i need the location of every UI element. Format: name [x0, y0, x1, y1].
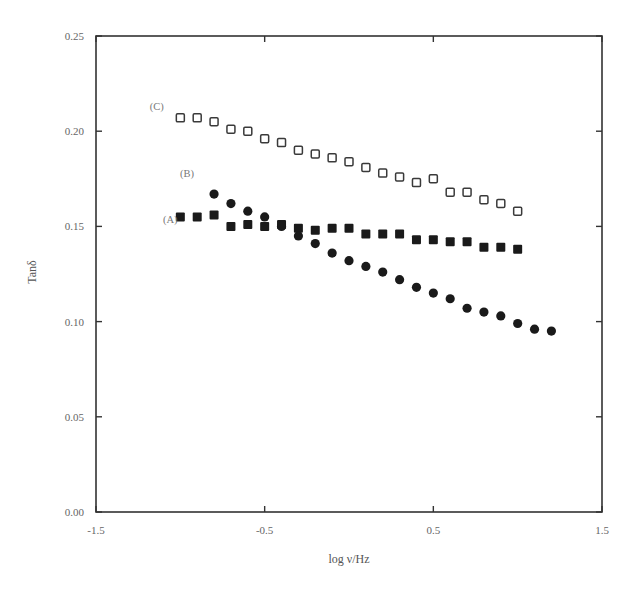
x-axis-title: log ν/Hz [328, 552, 369, 566]
data-point [514, 207, 522, 215]
y-tick-label: 0.20 [65, 125, 85, 137]
data-point [311, 239, 320, 248]
data-point [328, 248, 337, 257]
data-point [496, 243, 505, 252]
series-b [209, 189, 556, 335]
data-point [446, 294, 455, 303]
data-point [446, 237, 455, 246]
data-point [261, 135, 269, 143]
y-axis-title: Tanδ [25, 260, 39, 284]
data-point [361, 262, 370, 271]
series-layer [176, 114, 556, 336]
data-point [260, 212, 269, 221]
data-point [209, 189, 218, 198]
data-point [362, 163, 370, 171]
data-point [379, 169, 387, 177]
axes [96, 36, 602, 512]
plot-frame [96, 36, 602, 512]
data-point [412, 235, 421, 244]
series-label: (A) [163, 214, 178, 226]
series-label: (B) [180, 168, 195, 180]
data-point [260, 222, 269, 231]
data-point [226, 199, 235, 208]
data-point [547, 327, 556, 336]
data-point [513, 319, 522, 328]
data-point [496, 311, 505, 320]
data-point [278, 139, 286, 147]
data-point [412, 179, 420, 187]
data-point [429, 288, 438, 297]
data-point [462, 304, 471, 313]
data-point [311, 226, 320, 235]
data-point [210, 210, 219, 219]
data-point [479, 243, 488, 252]
data-point [210, 118, 218, 126]
data-point [294, 231, 303, 240]
data-point [294, 146, 302, 154]
data-point [463, 237, 472, 246]
data-point [429, 235, 438, 244]
data-point [243, 207, 252, 216]
clipped-caption [0, 586, 631, 595]
data-point [429, 175, 437, 183]
data-point [479, 307, 488, 316]
series-a [176, 210, 522, 253]
data-point [345, 224, 354, 233]
data-point [396, 173, 404, 181]
y-tick-label: 0.00 [65, 506, 85, 518]
data-point [480, 196, 488, 204]
data-point [361, 230, 370, 239]
data-point [328, 154, 336, 162]
data-point [446, 188, 454, 196]
data-point [395, 275, 404, 284]
y-tick-label: 0.05 [65, 411, 85, 423]
tan-delta-vs-log-frequency-chart: -1.5-0.50.51.50.000.050.100.150.200.25 (… [0, 0, 631, 595]
series-label: (C) [150, 101, 165, 113]
data-point [328, 224, 337, 233]
data-point [395, 230, 404, 239]
y-tick-label: 0.10 [65, 316, 85, 328]
x-tick-label: 1.5 [595, 524, 609, 536]
y-tick-label: 0.15 [65, 220, 85, 232]
data-point [530, 325, 539, 334]
data-point [176, 114, 184, 122]
data-point [226, 222, 235, 231]
data-point [243, 220, 252, 229]
data-point [412, 283, 421, 292]
data-point [378, 230, 387, 239]
data-point [463, 188, 471, 196]
x-tick-label: 0.5 [426, 524, 440, 536]
data-point [378, 267, 387, 276]
data-point [244, 127, 252, 135]
data-point [193, 114, 201, 122]
data-point [497, 200, 505, 208]
data-point [344, 256, 353, 265]
series-annotations: (C)(B)(A) [150, 101, 195, 225]
data-point [513, 245, 522, 254]
x-tick-label: -1.5 [87, 524, 105, 536]
tick-labels: -1.5-0.50.51.50.000.050.100.150.200.25 [65, 30, 610, 536]
data-point [345, 158, 353, 166]
data-point [227, 125, 235, 133]
data-point [311, 150, 319, 158]
data-point [193, 212, 202, 221]
y-tick-label: 0.25 [65, 30, 85, 42]
data-point [277, 222, 286, 231]
x-tick-label: -0.5 [256, 524, 274, 536]
